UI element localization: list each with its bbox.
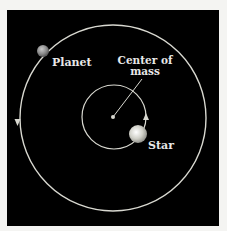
orbit-diagram: Planet Center of mass Star <box>0 0 227 231</box>
center-of-mass-dot <box>111 115 115 119</box>
star-orbit-arrow-icon <box>143 113 149 120</box>
center-of-mass-label-line2: mass <box>130 65 160 77</box>
star-label: Star <box>148 139 174 152</box>
planet-label: Planet <box>52 56 93 69</box>
star-body <box>129 125 147 143</box>
planet-body <box>37 45 49 57</box>
